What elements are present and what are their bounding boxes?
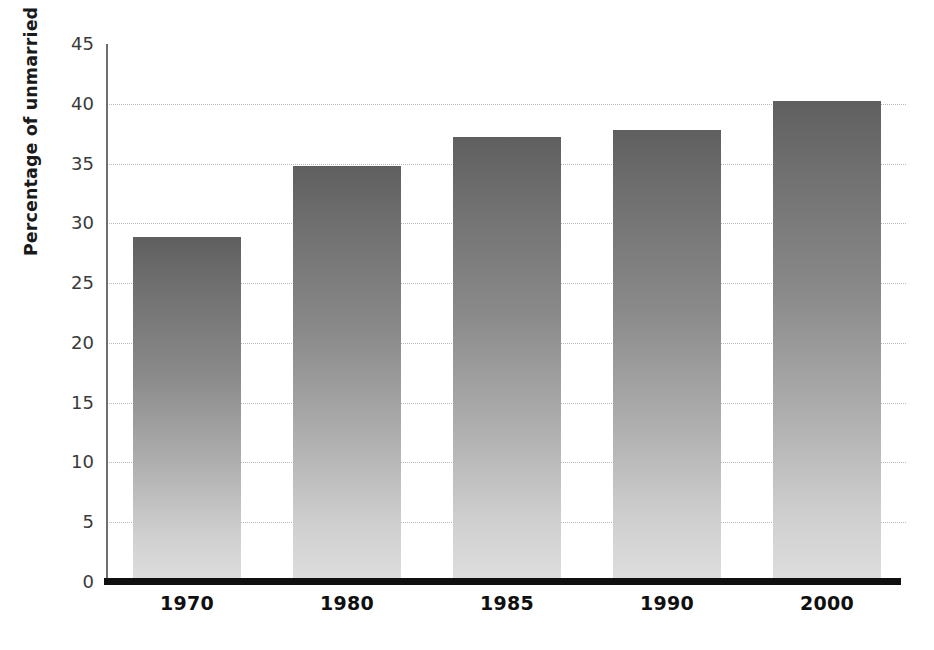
y-tick-label: 10 [48,453,94,471]
y-tick-label: 25 [48,274,94,292]
y-tick-label: 15 [48,394,94,412]
y-axis-ticks: 051015202530354045 [44,44,100,582]
y-tick-label: 5 [48,513,94,531]
y-tick-label: 35 [48,155,94,173]
bar-1970 [133,237,241,583]
x-tick-label-1970: 1970 [133,592,241,614]
bar-1985 [453,137,561,582]
x-tick-label-1990: 1990 [613,592,721,614]
x-tick-label-1985: 1985 [453,592,561,614]
bar-1990 [613,130,721,582]
x-axis-ticks: 19701980198519902000 [106,592,906,632]
y-tick-label: 20 [48,334,94,352]
y-tick-label: 45 [48,35,94,53]
y-tick-label: 0 [48,573,94,591]
bar-chart: Percentage of unmarried people over 18 0… [0,0,934,650]
y-tick-label: 30 [48,214,94,232]
x-tick-label-2000: 2000 [773,592,881,614]
y-axis-title: Percentage of unmarried people over 18 [14,0,48,344]
bars-group [106,44,906,582]
x-tick-label-1980: 1980 [293,592,401,614]
bar-2000 [773,101,881,582]
x-axis-line [104,578,901,585]
y-tick-label: 40 [48,95,94,113]
bar-1980 [293,166,401,582]
